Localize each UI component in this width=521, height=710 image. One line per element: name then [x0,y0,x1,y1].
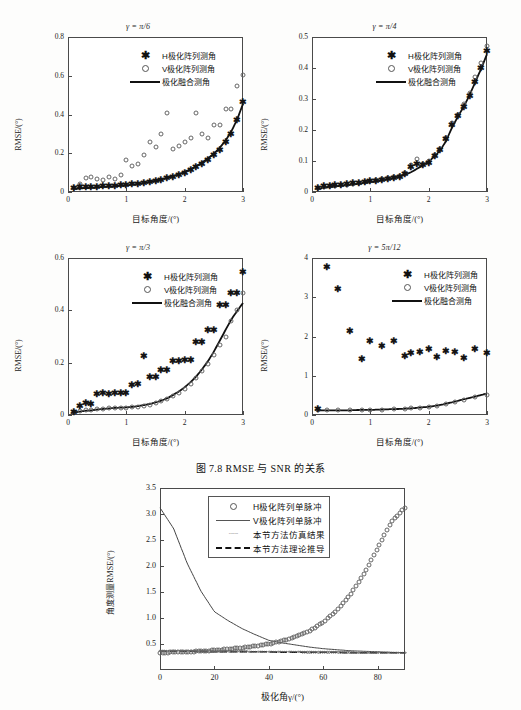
chart-legend-panel-pi-4: ✱H极化阵列测角V极化阵列测角极化融合测角 [374,49,462,88]
data-marker-circle [153,145,158,150]
chart-legend-panel-5pi-12: ✱H极化阵列测角V极化阵列测角极化融合测角 [390,268,478,307]
legend-row: V极化阵列单脉冲 [213,513,325,527]
data-marker-star: ✱ [210,325,218,334]
data-marker-circle [182,386,187,391]
data-marker-star: ✱ [433,352,441,361]
circle-glyph [144,286,151,293]
data-marker-circle [124,158,129,163]
data-marker-circle [417,405,422,410]
data-marker-star: ✱ [216,146,224,155]
data-marker-circle [136,161,141,166]
circle-glyph [230,503,237,510]
data-marker-circle [324,407,329,412]
data-marker-star: ✱ [483,46,491,55]
data-marker-circle [217,342,222,347]
data-marker-circle [200,131,205,136]
legend-label: 极化融合测角 [162,76,210,87]
data-marker-circle [206,361,211,366]
data-marker-circle [391,407,396,412]
legend-row: 极化融合测角 [128,75,216,88]
legend-label: V极化阵列单脉冲 [253,514,322,526]
chart-panel-polarization-angle: 角度测量RMSE/(°) 极化角γ/(°) 0.51.01.52.02.53.0… [105,482,435,707]
data-marker-star: ✱ [477,64,485,73]
circle-glyph [142,65,149,72]
data-marker-circle [223,106,228,111]
data-marker-star: ✱ [239,97,247,106]
legend-label: 本节方法仿真结果 [253,528,325,540]
data-marker-circle [182,139,187,144]
legend-label: V极化阵列测角 [162,63,215,74]
line-glyph [392,300,422,302]
data-marker-circle [235,84,240,89]
line-glyph [130,81,160,83]
data-marker-circle [461,398,466,403]
data-marker-star: ✱ [378,342,386,351]
data-marker-circle [112,405,117,410]
data-marker-circle [444,402,449,407]
legend-label: V极化阵列测角 [424,282,477,293]
data-marker-star: ✱ [222,301,230,310]
legend-thin-line-icon [213,514,253,527]
data-marker-star: ✱ [390,337,398,346]
figure-caption: 图 7.8 RMSE 与 SNR 的关系 [0,460,521,475]
legend-line-icon [374,75,408,88]
legend-row: 极化融合测角 [390,294,478,307]
data-marker-star: ✱ [346,326,354,335]
data-marker-circle [229,318,234,323]
data-marker-circle [118,405,123,410]
data-marker-h-circle [403,505,408,510]
legend-circle-icon [128,62,162,75]
legend-label: V极化阵列测角 [408,63,461,74]
data-marker-star: ✱ [460,102,468,111]
data-marker-sim [404,652,407,655]
data-marker-h-circle [372,552,377,557]
data-marker-star: ✱ [233,289,241,298]
legend-row: 极化融合测角 [374,75,462,88]
chart-legend-panel-pi-3: ✱H极化阵列测角V极化阵列测角极化融合测角 [130,270,218,309]
data-marker-circle [206,135,211,140]
legend-label: 极化融合测角 [424,295,472,306]
legend-line-icon [128,75,162,88]
data-marker-circle [159,131,164,136]
data-marker-circle [426,405,431,410]
chart-legend-bottom: H极化阵列单脉冲V极化阵列单脉冲·······本节方法仿真结果本节方法理论推导 [208,496,330,558]
data-marker-h-circle [387,523,392,528]
star-glyph: ✱ [143,271,152,282]
data-marker-star: ✱ [222,137,230,146]
dots-glyph: ······· [228,530,237,538]
line-glyph [216,520,250,521]
legend-dashed-line-icon [213,542,253,555]
data-marker-circle [241,291,246,296]
data-marker-circle [452,400,457,405]
legend-circle-icon [130,283,164,296]
legend-label: 本节方法理论推导 [253,542,325,554]
data-marker-circle [141,153,146,158]
data-marker-circle [241,72,246,77]
data-marker-circle [147,139,152,144]
data-marker-circle [118,172,123,177]
data-marker-star: ✱ [227,129,235,138]
legend-star-icon: ✱ [390,268,424,281]
data-marker-circle [136,404,141,409]
legend-line-icon [130,296,164,309]
data-marker-circle [147,402,152,407]
star-glyph: ✱ [141,50,150,61]
data-marker-h-circle [379,538,384,543]
data-marker-star: ✱ [442,135,450,144]
data-marker-circle [141,403,146,408]
data-marker-circle [194,110,199,115]
data-marker-circle [188,135,193,140]
data-marker-circle [368,407,373,412]
legend-label: V极化阵列测角 [164,284,217,295]
data-marker-star: ✱ [425,345,433,354]
data-marker-circle [176,390,181,395]
legend-star-icon: ✱ [128,49,162,62]
data-marker-star: ✱ [460,354,468,363]
data-marker-star: ✱ [442,347,450,356]
data-marker-circle [217,123,222,128]
data-marker-circle [153,401,158,406]
data-marker-circle [171,394,176,399]
circle-glyph [388,65,395,72]
data-marker-circle [194,376,199,381]
legend-row: ·······本节方法仿真结果 [213,527,325,541]
